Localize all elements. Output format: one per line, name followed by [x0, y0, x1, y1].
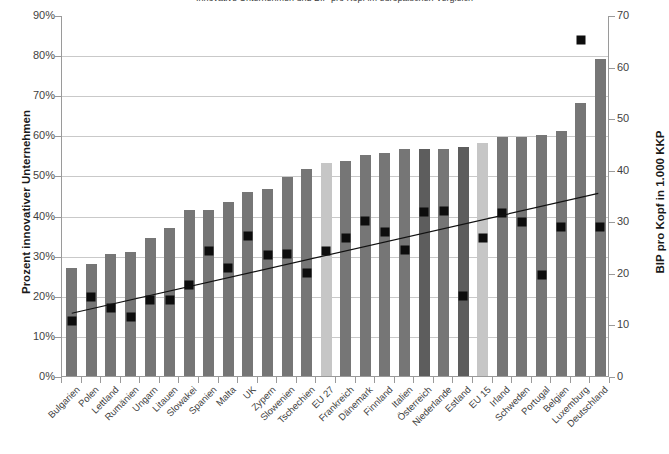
- y-axis-right-tick-mark: [609, 325, 615, 326]
- y-axis-left-tick-label: 0%: [21, 370, 55, 382]
- y-axis-left-tick-label: 80%: [21, 49, 55, 61]
- x-axis-tick-mark: [570, 377, 571, 383]
- x-axis-tick-mark: [413, 377, 414, 383]
- chart-title: Innovative Unternehmen und BIP pro Kopf …: [0, 0, 669, 3]
- bar: [223, 202, 234, 376]
- y-axis-left-tick-label: 90%: [21, 9, 55, 21]
- plot-area: [61, 16, 609, 377]
- x-axis-tick-mark: [355, 377, 356, 383]
- y-axis-right-tick-label: 40: [617, 164, 647, 176]
- x-axis-tick-mark: [120, 377, 121, 383]
- bar: [399, 149, 410, 376]
- bar: [340, 161, 351, 376]
- scatter-marker: [126, 312, 135, 321]
- y-axis-right-tick-label: 70: [617, 9, 647, 21]
- bar: [86, 264, 97, 376]
- y-axis-right-tick-label: 10: [617, 318, 647, 330]
- y-axis-right-tick-mark: [609, 16, 615, 17]
- bar: [321, 163, 332, 376]
- x-axis-tick-mark: [531, 377, 532, 383]
- y-axis-left-tick-label: 20%: [21, 290, 55, 302]
- y-axis-right-tick-label: 60: [617, 61, 647, 73]
- y-axis-right-tick-mark: [609, 68, 615, 69]
- x-axis-tick-mark: [276, 377, 277, 383]
- y-axis-right-tick-label: 0: [617, 370, 647, 382]
- scatter-marker: [478, 233, 487, 242]
- bar: [575, 103, 586, 376]
- scatter-marker: [557, 222, 566, 231]
- gridline: [62, 56, 608, 57]
- y-axis-right-tick-mark: [609, 274, 615, 275]
- y-axis-right-tick-mark: [609, 119, 615, 120]
- bar: [184, 210, 195, 376]
- scatter-marker: [517, 218, 526, 227]
- chart-root: Innovative Unternehmen und BIP pro Kopf …: [0, 0, 669, 454]
- x-axis-tick-mark: [178, 377, 179, 383]
- y-axis-left-tick-label: 60%: [21, 129, 55, 141]
- scatter-marker: [165, 295, 174, 304]
- x-axis-category-label: EU 15: [466, 384, 492, 410]
- scatter-marker: [341, 234, 350, 243]
- x-axis-tick-mark: [296, 377, 297, 383]
- y-axis-title-right: BIP pro Kopf in 1.000 KKP: [654, 92, 666, 312]
- x-axis-tick-mark: [511, 377, 512, 383]
- y-axis-left-tick-label: 10%: [21, 330, 55, 342]
- x-axis-tick-mark: [139, 377, 140, 383]
- bar: [438, 149, 449, 376]
- y-axis-title-left: Prozent innovativer Unternehmen: [20, 92, 32, 312]
- bar: [419, 149, 430, 376]
- bar: [536, 135, 547, 376]
- scatter-marker: [106, 304, 115, 313]
- bar: [556, 131, 567, 376]
- x-axis-tick-mark: [315, 377, 316, 383]
- y-axis-right-tick-label: 20: [617, 267, 647, 279]
- x-axis-tick-mark: [335, 377, 336, 383]
- scatter-marker: [204, 247, 213, 256]
- bar: [145, 238, 156, 376]
- x-axis-tick-mark: [237, 377, 238, 383]
- y-axis-right-tick-mark: [609, 222, 615, 223]
- bar: [360, 155, 371, 376]
- bar: [203, 210, 214, 376]
- bar: [477, 143, 488, 376]
- scatter-marker: [420, 208, 429, 217]
- bar: [497, 137, 508, 376]
- bar: [262, 189, 273, 376]
- scatter-marker: [576, 36, 585, 45]
- y-axis-right-tick-label: 50: [617, 112, 647, 124]
- scatter-marker: [439, 207, 448, 216]
- x-axis-tick-mark: [550, 377, 551, 383]
- x-axis-tick-mark: [218, 377, 219, 383]
- bar: [379, 153, 390, 376]
- x-axis-tick-mark: [257, 377, 258, 383]
- scatter-marker: [459, 292, 468, 301]
- scatter-marker: [302, 268, 311, 277]
- x-axis-tick-mark: [433, 377, 434, 383]
- bar: [282, 177, 293, 376]
- y-axis-left-tick-label: 50%: [21, 169, 55, 181]
- y-axis-left-tick-label: 70%: [21, 89, 55, 101]
- scatter-marker: [224, 263, 233, 272]
- bar: [516, 137, 527, 376]
- y-axis-right-tick-label: 30: [617, 215, 647, 227]
- scatter-marker: [380, 228, 389, 237]
- scatter-marker: [185, 281, 194, 290]
- scatter-marker: [67, 316, 76, 325]
- bar: [242, 192, 253, 377]
- scatter-marker: [243, 231, 252, 240]
- x-axis-tick-mark: [100, 377, 101, 383]
- x-axis-tick-mark: [472, 377, 473, 383]
- scatter-marker: [322, 246, 331, 255]
- gridline: [62, 96, 608, 97]
- y-axis-left-tick-label: 30%: [21, 250, 55, 262]
- x-axis-tick-mark: [198, 377, 199, 383]
- y-axis-right-tick-mark: [609, 171, 615, 172]
- scatter-marker: [263, 251, 272, 260]
- x-axis-tick-mark: [452, 377, 453, 383]
- x-axis-tick-mark: [61, 377, 62, 383]
- x-axis-category-label: Malta: [214, 384, 238, 408]
- scatter-marker: [361, 216, 370, 225]
- x-axis-tick-mark: [492, 377, 493, 383]
- x-axis-tick-mark: [609, 377, 610, 383]
- scatter-marker: [400, 245, 409, 254]
